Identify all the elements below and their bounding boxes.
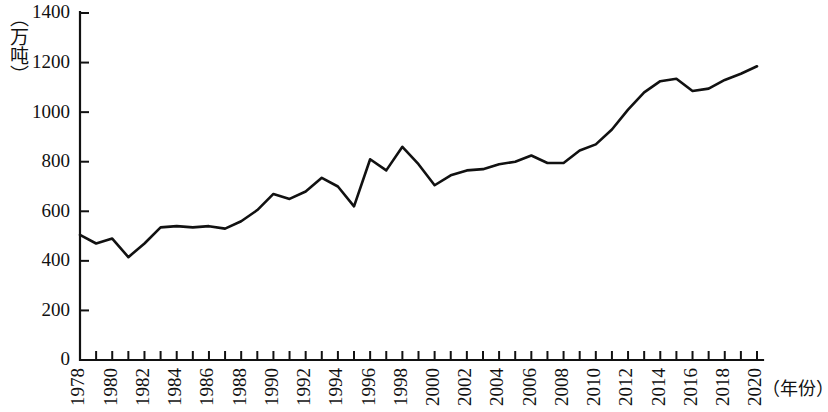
y-axis-tick-label: 800 — [42, 150, 71, 171]
x-axis-tick-label: 1988 — [229, 368, 250, 406]
x-axis-tick-label: 1994 — [325, 368, 346, 407]
x-axis-tick-label: 1996 — [358, 368, 379, 406]
chart-plot-area: 0200400600800100012001400 19781980198219… — [0, 0, 828, 412]
y-axis-tick-label: 200 — [42, 299, 71, 320]
x-axis-ticks — [80, 351, 757, 360]
y-axis-tick-label: 0 — [61, 348, 71, 369]
x-axis-tick-label: 1982 — [132, 368, 153, 406]
x-axis-tick-label: 2012 — [615, 368, 636, 406]
y-axis-tick-labels: 0200400600800100012001400 — [32, 1, 70, 369]
x-axis-tick-label: 1990 — [261, 368, 282, 406]
line-chart: （万吨） 0200400600800100012001400 197819801… — [0, 0, 828, 412]
x-axis-tick-label: 1984 — [164, 368, 185, 407]
y-axis-tick-label: 1200 — [32, 51, 70, 72]
x-axis-tick-label: 1992 — [293, 368, 314, 406]
x-axis-tick-label: 2004 — [486, 367, 507, 406]
x-axis-tick-label: 2002 — [454, 368, 475, 406]
x-axis-tick-label: 2018 — [712, 368, 733, 406]
x-axis-tick-label: 2008 — [551, 368, 572, 406]
x-axis-tick-label: 2006 — [519, 368, 540, 406]
x-axis-tick-label: 2000 — [422, 368, 443, 406]
y-axis-tick-label: 1400 — [32, 1, 70, 22]
x-axis-tick-label: 2010 — [583, 368, 604, 406]
chart-axes — [80, 12, 763, 360]
x-axis-tick-labels: 1978198019821984198619881990199219941996… — [67, 367, 765, 406]
x-axis-tick-label: 1998 — [390, 368, 411, 406]
data-series-line — [80, 66, 757, 257]
x-axis-tick-label: 2014 — [648, 368, 669, 407]
y-axis-tick-label: 1000 — [32, 101, 70, 122]
y-axis-tick-label: 400 — [42, 249, 71, 270]
x-axis-tick-label: 1986 — [196, 368, 217, 406]
x-axis-tick-label: 1980 — [100, 368, 121, 406]
x-axis-tick-label: 1978 — [67, 368, 88, 406]
y-axis-tick-label: 600 — [42, 200, 71, 221]
x-axis-tick-label: 2016 — [680, 368, 701, 406]
x-axis-unit-label: （年份） — [762, 374, 828, 400]
y-axis-ticks — [80, 13, 89, 310]
